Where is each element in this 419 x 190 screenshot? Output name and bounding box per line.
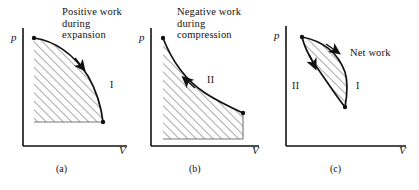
curve-end-dot-b: [241, 111, 245, 115]
panel-b: Negative work during compression p V II …: [133, 0, 273, 190]
panel-a-y-axis-label: p: [11, 31, 17, 43]
shaded-area-c: [302, 37, 347, 107]
panel-a-curve-label-I: I: [110, 79, 114, 90]
panel-b-curve-label-II: II: [207, 74, 214, 85]
panel-b-y-axis-label: p: [139, 31, 145, 43]
shaded-area-b: [163, 38, 243, 139]
panel-a-caption: (a): [56, 163, 67, 174]
panel-c-x-axis-label: V: [399, 144, 406, 156]
panel-a-title: Positive work during expansion: [62, 6, 122, 41]
panel-c-y-axis-label: p: [274, 29, 280, 41]
panel-b-caption: (b): [189, 163, 201, 174]
cycle-top-vertex-c: [300, 35, 304, 39]
curve-end-dot-a: [101, 120, 105, 124]
cycle-bottom-vertex-c: [343, 105, 347, 109]
panel-c-curve-label-II: II: [292, 80, 299, 91]
panel-b-x-axis-label: V: [252, 144, 259, 156]
panel-c-net-work-label: Net work: [350, 47, 391, 58]
panel-b-title: Negative work during compression: [177, 6, 241, 41]
curve-start-dot-a: [32, 36, 36, 40]
panel-c-curve-label-I: I: [356, 80, 360, 91]
curve-start-dot-b: [161, 36, 165, 40]
pv-diagram-figure: Positive work during expansion p V I (a): [0, 0, 419, 190]
panel-c-caption: (c): [330, 163, 341, 174]
shaded-area-a: [34, 38, 103, 122]
panel-c: p V Net work I II (c): [268, 0, 419, 190]
panel-a-x-axis-label: V: [119, 144, 126, 156]
panel-c-plot: [268, 0, 419, 190]
panel-a: Positive work during expansion p V I (a): [0, 0, 140, 190]
